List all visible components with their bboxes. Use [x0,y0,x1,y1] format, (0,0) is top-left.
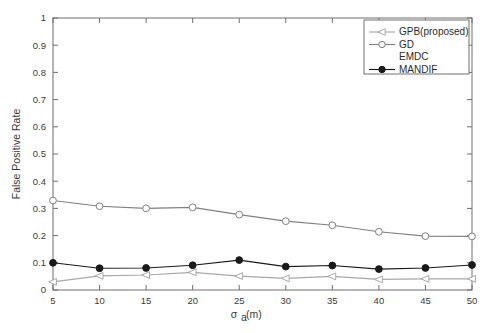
legend-label: MANDIF [399,64,437,75]
y-tick-label: 0.4 [33,176,46,187]
x-tick-label: 40 [374,295,385,306]
x-tick-label: 30 [280,295,291,306]
data-point-marker [50,259,57,266]
y-axis-title: False Positive Rate [10,109,22,200]
x-tick-label: 50 [467,295,478,306]
y-tick-label: 0.1 [33,257,46,268]
data-point-marker [375,266,382,273]
y-tick-label: 0 [41,284,46,295]
data-point-marker [329,262,336,269]
y-tick-label: 1 [41,12,46,23]
y-tick-label: 0.7 [33,94,46,105]
data-point-marker [469,262,476,269]
data-point-marker [143,205,150,212]
x-tick-label: 35 [327,295,338,306]
data-point-marker [96,265,103,272]
data-point-marker [282,263,289,270]
data-point-marker [50,197,57,204]
x-tick-label: 5 [50,295,55,306]
x-tick-label: 10 [94,295,105,306]
data-point-marker [143,265,150,272]
data-point-marker [236,211,243,218]
legend-item-2[interactable]: EMDC [399,51,428,62]
data-point-marker [422,233,429,240]
x-tick-label: 15 [141,295,152,306]
legend-label: GD [399,39,414,50]
x-axis-title-unit: (m) [246,308,262,320]
y-tick-label: 0.2 [33,230,46,241]
chart-plot: 00.10.20.30.40.50.60.70.80.91 5101520253… [0,0,487,333]
x-tick-label: 45 [420,295,431,306]
y-tick-label: 0.6 [33,121,46,132]
data-point-marker [379,66,385,72]
data-point-marker [422,265,429,272]
y-tick-label: 0.8 [33,67,46,78]
data-point-marker [375,228,382,235]
data-point-marker [469,233,476,240]
data-point-marker [189,262,196,269]
data-point-marker [329,222,336,229]
x-tick-label: 20 [187,295,198,306]
data-point-marker [379,41,385,47]
legend: GPB(proposed)GDEMDCMANDIF [364,20,469,75]
y-tick-label: 0.5 [33,148,46,159]
x-tick-label: 25 [234,295,245,306]
y-tick-label: 0.9 [33,40,46,51]
x-axis-title: σ a (m) [231,308,262,323]
y-tick-label: 0.3 [33,203,46,214]
legend-label: GPB(proposed) [399,26,468,37]
x-axis-title-sigma: σ [231,308,238,320]
figure-canvas: 00.10.20.30.40.50.60.70.80.91 5101520253… [0,0,487,333]
data-point-marker [236,257,243,264]
data-point-marker [282,218,289,225]
data-point-marker [189,204,196,211]
data-point-marker [96,203,103,210]
legend-label: EMDC [399,51,428,62]
